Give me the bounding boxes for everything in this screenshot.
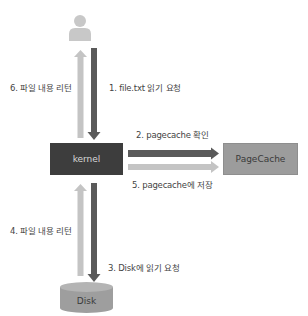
arrow-3-down-dark xyxy=(88,183,101,282)
kernel-node: kernel xyxy=(50,143,123,175)
edge-label-4: 4. 파일 내용 리턴 xyxy=(10,224,72,236)
edge-label-3: 3. Disk에 읽기 요청 xyxy=(108,261,180,273)
edge-label-1: 1. file.txt 읽기 요청 xyxy=(109,81,181,93)
arrow-6-up-light xyxy=(74,50,87,138)
edge-label-5: 5. pagecache에 저장 xyxy=(132,178,213,190)
kernel-label: kernel xyxy=(73,154,101,164)
arrow-2-right-dark xyxy=(128,148,219,160)
pagecache-node: PageCache xyxy=(223,143,298,175)
disk-label: Disk xyxy=(77,296,96,306)
user-icon xyxy=(69,15,91,41)
arrow-4-up-light xyxy=(74,184,87,276)
arrow-5-right-light xyxy=(128,161,219,173)
disk-node: Disk xyxy=(60,292,113,310)
edge-label-6: 6. 파일 내용 리턴 xyxy=(10,81,72,93)
edge-label-2: 2. pagecache 확인 xyxy=(136,128,209,140)
arrow-1-down-dark xyxy=(88,48,101,140)
pagecache-label: PageCache xyxy=(236,154,286,164)
